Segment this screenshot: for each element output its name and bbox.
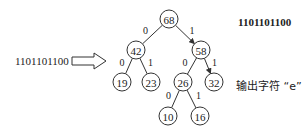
tree-edge — [126, 58, 133, 74]
edge-label: 1 — [148, 57, 153, 68]
svg-text:26: 26 — [178, 77, 190, 89]
svg-text:32: 32 — [209, 77, 220, 89]
tree-node: 26 — [174, 73, 192, 91]
svg-text:68: 68 — [164, 14, 176, 26]
edge-label: 1 — [196, 90, 201, 101]
svg-text:58: 58 — [196, 45, 208, 57]
svg-text:19: 19 — [117, 77, 129, 89]
hollow-right-arrow-icon — [72, 53, 106, 69]
edge-label: 0 — [120, 57, 125, 68]
tree-node: 32 — [205, 73, 223, 91]
tree-node: 23 — [142, 73, 160, 91]
edge-label: 0 — [183, 57, 188, 68]
edge-label: 1 — [212, 57, 217, 68]
edge-label: 0 — [166, 90, 171, 101]
tree-edges: 01010101 — [120, 25, 218, 108]
svg-text:16: 16 — [195, 111, 207, 123]
svg-text:10: 10 — [163, 111, 175, 123]
tree-edge — [187, 58, 196, 74]
svg-text:23: 23 — [146, 77, 158, 89]
tree-node: 68 — [160, 10, 178, 28]
svg-text:42: 42 — [131, 45, 142, 57]
tree-node: 10 — [159, 107, 177, 125]
tree-edge — [172, 90, 180, 108]
tree-edge — [187, 90, 196, 108]
tree-edge — [140, 58, 147, 74]
tree-node: 58 — [192, 41, 210, 59]
edge-label: 1 — [190, 25, 195, 36]
tree-node: 19 — [113, 73, 131, 91]
edge-label: 0 — [143, 25, 148, 36]
tree-edge — [204, 58, 210, 73]
tree-nodes: 684258192326321016 — [113, 10, 223, 125]
tree-node: 42 — [127, 41, 145, 59]
tree-node: 16 — [191, 107, 209, 125]
huffman-tree-diagram: 01010101 684258192326321016 — [0, 0, 308, 133]
